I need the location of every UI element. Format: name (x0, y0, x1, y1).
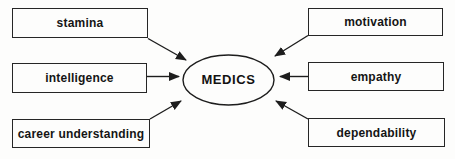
factor-box-intelligence: intelligence (12, 63, 147, 93)
arrow-dependability-to-medics (276, 101, 308, 119)
factor-label: motivation (344, 15, 407, 29)
factor-label: intelligence (45, 71, 113, 85)
concept-diagram: stamina intelligence career understandin… (0, 0, 455, 159)
arrow-career-understanding-to-medics (150, 101, 181, 119)
arrow-stamina-to-medics (148, 39, 186, 61)
factor-label: stamina (57, 16, 104, 30)
factor-box-stamina: stamina (12, 8, 148, 38)
factor-box-empathy: empathy (308, 62, 444, 91)
arrow-motivation-to-medics (275, 36, 308, 57)
factor-label: career understanding (18, 127, 145, 141)
factor-box-career-understanding: career understanding (12, 119, 150, 148)
medics-center-label: MEDICS (183, 72, 274, 88)
factor-label: empathy (351, 70, 402, 84)
factor-box-dependability: dependability (308, 118, 445, 147)
factor-box-motivation: motivation (308, 8, 443, 36)
factor-label: dependability (337, 126, 417, 140)
